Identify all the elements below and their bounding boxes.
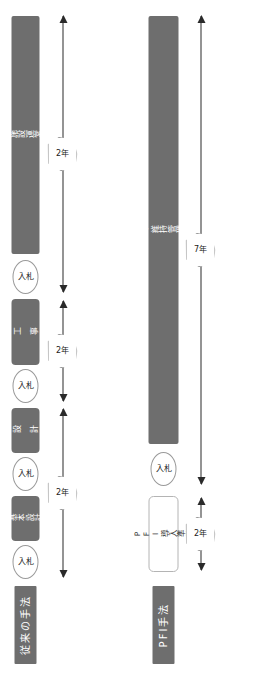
diagram-canvas: 従来の手法 入札 基本設計 入札 設 計 入札 工 事 入札	[0, 0, 269, 682]
pfi-method-row: PFI手法 PFI導入準備 入札 設計・工事・維持管理・施設運営 2年 7年	[0, 0, 269, 682]
duration-callout-pfi-contract: 7年	[185, 233, 215, 267]
bid-label: 入札	[155, 465, 171, 473]
pfi-method-title: PFI手法	[152, 586, 174, 664]
phase-pfi-contract: 設計・工事・維持管理・施設運営	[148, 16, 178, 444]
bid-ellipse-pfi: 入札	[150, 452, 176, 486]
phase-pfi-preparation: PFI導入準備	[148, 496, 178, 572]
duration-callout-pfi-prep: 2年	[185, 517, 215, 551]
